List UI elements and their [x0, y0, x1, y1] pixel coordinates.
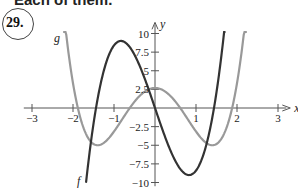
curve-label-g: g	[54, 31, 60, 45]
y-tick-label: 7.5	[135, 46, 149, 58]
y-tick-label: −2.5	[129, 121, 149, 133]
x-tick-label: 1	[193, 112, 199, 124]
y-tick-label: 5	[144, 65, 150, 77]
axes	[24, 22, 291, 186]
x-tick-label: −3	[26, 112, 38, 124]
y-tick-label: 2.5	[135, 83, 149, 95]
y-tick-label: 10	[138, 28, 150, 40]
y-axis-label: y	[159, 17, 166, 31]
curve-label-f: f	[77, 174, 82, 188]
function-graph: −3−2−1123107.552.5−2.5−5−7.5−10xygf	[0, 0, 298, 193]
x-tick-label: 3	[275, 112, 281, 124]
x-axis-label: x	[293, 101, 298, 115]
x-tick-label: −1	[108, 112, 120, 124]
y-tick-label: −7.5	[129, 158, 149, 170]
x-tick-label: −2	[67, 112, 79, 124]
y-tick-label: −5	[137, 139, 149, 151]
x-tick-label: 2	[234, 112, 240, 124]
y-tick-label: −10	[132, 177, 150, 189]
